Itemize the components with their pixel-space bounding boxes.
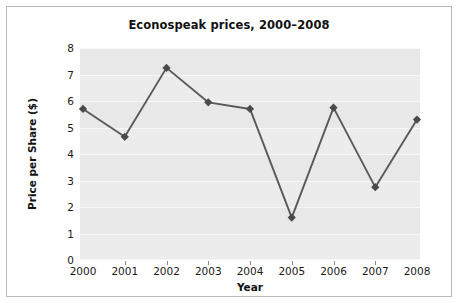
y-tick-label: 7 [48,70,74,80]
data-point-marker [246,105,254,113]
y-tick-label: 0 [48,255,74,265]
x-tick-label: 2008 [392,266,442,277]
data-point-marker [329,104,337,112]
x-tick-mark [250,261,251,265]
y-tick-label: 2 [48,202,74,212]
data-point-marker [288,214,296,222]
y-tick-label: 6 [48,96,74,106]
y-tick-label: 5 [48,123,74,133]
y-tick-label: 4 [48,149,74,159]
line-series-svg [80,48,420,260]
y-tick-label: 3 [48,176,74,186]
plot-area [80,48,420,260]
y-axis-label: Price per Share ($) [26,94,38,214]
y-tick-label: 1 [48,229,74,239]
x-tick-mark [334,261,335,265]
series-line [83,68,417,218]
x-tick-mark [292,261,293,265]
x-tick-mark [208,261,209,265]
chart-title: Econospeak prices, 2000–2008 [0,18,458,32]
chart-figure: Econospeak prices, 2000–2008 Price per S… [0,0,458,303]
x-axis-label: Year [80,281,420,293]
y-tick-label: 8 [48,43,74,53]
x-tick-mark [167,261,168,265]
x-tick-mark [375,261,376,265]
x-tick-mark [125,261,126,265]
